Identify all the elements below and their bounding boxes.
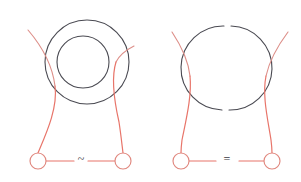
left-inner-circle [57,36,109,88]
left-node-b[interactable] [115,153,131,169]
left-knot-diagram: ~ [28,20,134,169]
right-knot-diagram: = [172,26,288,169]
left-strand-lower-segment [38,86,55,153]
right-right-strand-lower [265,76,272,153]
left-strand-upper-segment [28,30,55,86]
right-circle-right-arc [229,26,272,110]
right-strand-lower-segment [113,62,123,153]
right-strand-upper-segment [116,46,134,62]
right-circle-left-arc [181,26,224,110]
diagram-canvas: ~ = [0,0,301,182]
left-node-a[interactable] [30,153,46,169]
right-node-a[interactable] [173,153,189,169]
equals-symbol: = [224,152,231,166]
knot-diagram-svg: ~ = [0,0,301,182]
right-node-b[interactable] [264,153,280,169]
tilde-equivalence-symbol: ~ [78,152,85,166]
